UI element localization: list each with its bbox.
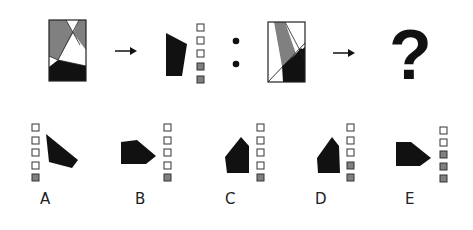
option-c-indicator — [257, 124, 264, 181]
question-mark: ? — [389, 20, 432, 90]
option-a-indicator — [32, 124, 39, 181]
option-b-indicator — [164, 124, 171, 181]
example-source-panel — [49, 20, 86, 81]
option-e-label[interactable]: E — [405, 190, 414, 208]
option-c-label[interactable]: C — [225, 190, 235, 208]
analogy-separator-icon — [233, 38, 240, 68]
option-a-label[interactable]: A — [40, 190, 50, 208]
arrow-icon — [115, 47, 137, 55]
option-d-indicator — [347, 124, 354, 181]
option-e-shape[interactable] — [396, 142, 431, 166]
option-d-label[interactable]: D — [315, 190, 327, 208]
option-c-shape[interactable] — [225, 137, 249, 173]
example-result-shape — [166, 33, 187, 76]
puzzle-figure: ? A B C D E — [0, 0, 473, 230]
arrow-icon — [333, 49, 355, 57]
option-b-label[interactable]: B — [135, 190, 145, 208]
option-e-indicator — [440, 127, 447, 182]
query-source-panel — [268, 22, 305, 82]
option-b-shape[interactable] — [121, 140, 156, 164]
option-d-shape[interactable] — [317, 137, 340, 173]
option-a-shape[interactable] — [46, 134, 78, 168]
example-result-indicator — [197, 24, 204, 83]
